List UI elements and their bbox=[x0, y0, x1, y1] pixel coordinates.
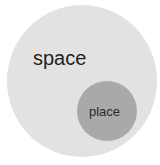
place-label: place bbox=[89, 104, 120, 119]
space-circle bbox=[7, 5, 157, 157]
space-label: space bbox=[33, 47, 86, 70]
